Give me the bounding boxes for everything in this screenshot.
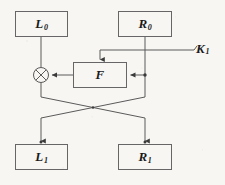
edge-r0-to-l1 bbox=[41, 97, 145, 141]
junction-dot-r0-branch bbox=[143, 73, 146, 76]
diagram-canvas bbox=[0, 0, 225, 185]
key-line-tick bbox=[194, 46, 197, 50]
node-box-l0 bbox=[16, 12, 68, 37]
edge-k1-to-f bbox=[100, 50, 194, 60]
node-box-r0 bbox=[119, 12, 172, 37]
node-box-r1 bbox=[119, 145, 172, 170]
edge-xor-to-r1 bbox=[41, 97, 145, 141]
junction-dot-r1-input bbox=[144, 141, 147, 144]
node-box-l1 bbox=[16, 145, 68, 170]
feistel-diagram: L0 R0 F L1 R1 K1 bbox=[0, 0, 225, 185]
junction-dot-crossing bbox=[92, 106, 94, 108]
node-box-f bbox=[74, 63, 127, 88]
junction-dot-l1-input bbox=[40, 141, 43, 144]
